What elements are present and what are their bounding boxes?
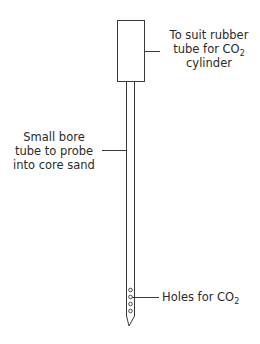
- co2-holes: [129, 288, 133, 313]
- connector-label-line-3: cylinder: [160, 56, 258, 70]
- tube-label-line-2: tube to probe: [8, 144, 100, 158]
- connector-label: To suit rubber tube for CO2 cylinder: [160, 28, 258, 70]
- connector-label-line-1: To suit rubber: [160, 28, 258, 42]
- probe-tube: [127, 81, 135, 326]
- connector-box: [118, 21, 145, 82]
- tube-label-line-3: into core sand: [8, 158, 100, 172]
- holes-label: Holes for CO2: [162, 290, 239, 304]
- tube-label-line-1: Small bore: [8, 130, 100, 144]
- tube-label: Small bore tube to probe into core sand: [8, 130, 100, 172]
- connector-label-line-2: tube for CO2: [160, 42, 258, 56]
